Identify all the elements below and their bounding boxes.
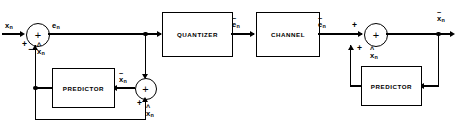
arrow-into-channel xyxy=(250,31,255,37)
block-quantizer: QUANTIZER xyxy=(162,12,233,57)
arrow-input-x xyxy=(20,31,25,37)
sign-right-plus-in: + xyxy=(352,21,357,30)
arrow-into-summer-right xyxy=(358,31,363,37)
wire-predictor-right-up xyxy=(350,45,351,86)
wire-into-predictor-right xyxy=(424,85,439,86)
label-output-x-tilde: ~xn xyxy=(437,15,445,23)
arrow-into-summer-left-bottom-plus xyxy=(142,97,148,102)
sign-right-plus-fb: + xyxy=(357,44,362,53)
block-predictor-right: PREDICTOR xyxy=(361,66,422,106)
label-channel-e-tilde: ~en xyxy=(318,21,326,29)
wire-recon-x-tilde-left xyxy=(117,87,135,88)
block-predictor-left-label: PREDICTOR xyxy=(63,85,104,92)
label-pred-bottom-xhat: ^xn xyxy=(146,110,154,118)
arrow-into-summer-right-plus xyxy=(348,45,354,50)
wire-error-tap-down xyxy=(145,33,146,78)
wire-channel-out xyxy=(318,33,362,34)
block-predictor-right-label: PREDICTOR xyxy=(371,83,412,90)
wire-output-x-tilde xyxy=(386,33,452,34)
label-pred-left-xhat: ^xn xyxy=(37,48,45,56)
wire-left-rail-down xyxy=(35,87,36,120)
wire-input-x xyxy=(2,33,20,34)
block-channel-label: CHANNEL xyxy=(271,31,305,38)
label-pred-right-xhat: ^xn xyxy=(370,52,378,60)
sign-left-plus: + xyxy=(22,40,27,49)
label-quantized-e-tilde: ~en xyxy=(232,21,240,29)
summer-left-symbol: + xyxy=(35,29,41,40)
summer-right: + xyxy=(364,23,388,47)
label-error-e: en xyxy=(52,22,60,30)
block-predictor-left: PREDICTOR xyxy=(52,68,115,108)
summer-left-bottom-symbol: + xyxy=(142,83,148,94)
wire-left-rail-bottom xyxy=(35,119,146,120)
wire-predictor-left-up xyxy=(35,45,36,88)
summer-right-symbol: + xyxy=(373,29,379,40)
block-channel: CHANNEL xyxy=(256,12,320,57)
dpcm-block-diagram: + xn + − ^xn en QUANTIZER ~en CHANNEL ~e… xyxy=(0,0,462,126)
wire-predictor-right-out xyxy=(350,85,361,86)
block-quantizer-label: QUANTIZER xyxy=(177,31,218,38)
wire-output-tap-down xyxy=(438,33,439,86)
label-recon-x-tilde-left: ~xn xyxy=(119,76,127,84)
wire-left-rail-up-to-summer xyxy=(145,101,146,120)
arrow-output-x-tilde xyxy=(450,31,455,37)
label-input-x: xn xyxy=(5,22,13,30)
arrow-into-summer-left-minus xyxy=(32,45,38,50)
